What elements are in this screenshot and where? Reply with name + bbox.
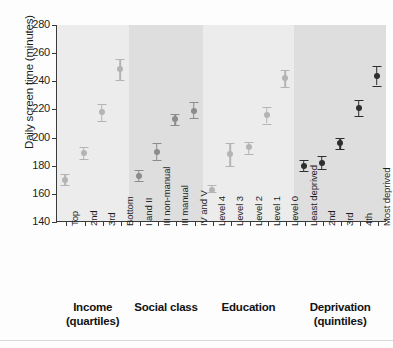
- chart-figure: Daily screen time (minutes) 140160180200…: [0, 0, 393, 348]
- marker-dot: [136, 173, 142, 179]
- x-axis-label: Level 2: [253, 196, 264, 226]
- x-axis-label: Level 3: [234, 196, 245, 226]
- data-point-income-3: [114, 25, 126, 222]
- error-bar-cap-upper: [116, 59, 125, 60]
- y-axis-tick-label: 280: [10, 18, 50, 30]
- marker-dot: [154, 149, 160, 155]
- error-bar-cap-upper: [317, 156, 326, 157]
- marker-dot: [172, 116, 178, 122]
- error-bar-cap-upper: [281, 70, 290, 71]
- data-point-education-2: [243, 25, 255, 222]
- marker-dot: [117, 66, 123, 72]
- marker-dot: [246, 144, 252, 150]
- data-point-income-1: [78, 25, 90, 222]
- error-bar-cap-upper: [354, 100, 363, 101]
- x-axis-label: 3rd: [106, 213, 117, 226]
- data-point-income-2: [96, 25, 108, 222]
- error-bar-cap-lower: [171, 125, 180, 126]
- x-axis-label: Top: [69, 211, 80, 226]
- error-bar-cap-lower: [372, 86, 381, 87]
- error-bar-cap-upper: [152, 143, 161, 144]
- x-axis-label: Level 0: [289, 196, 300, 226]
- y-axis-tick-label: 220: [10, 102, 50, 114]
- x-axis-label: 3rd: [344, 213, 355, 226]
- x-axis-label: III manual: [179, 185, 190, 226]
- error-bar-cap-upper: [171, 114, 180, 115]
- error-bar-cap-lower: [61, 185, 70, 186]
- y-axis-tick-label: 160: [10, 187, 50, 199]
- marker-dot: [301, 163, 307, 169]
- x-axis-label: I and II: [143, 198, 154, 226]
- data-point-education-3: [261, 25, 273, 222]
- marker-dot: [99, 109, 105, 115]
- error-bar-cap-lower: [281, 87, 290, 88]
- data-point-deprivation-2: [334, 25, 346, 222]
- group-caption-deprivation: Deprivation(quintiles): [280, 300, 393, 328]
- error-bar-cap-lower: [299, 171, 308, 172]
- y-axis-tick-label: 180: [10, 159, 50, 171]
- x-axis-label: Most deprived: [381, 168, 392, 226]
- plot-area: [56, 25, 386, 222]
- error-bar-cap-upper: [61, 174, 70, 175]
- error-bar-cap-lower: [134, 181, 143, 182]
- error-bar-cap-lower: [336, 149, 345, 150]
- x-axis-label: 4th: [363, 213, 374, 226]
- error-bar-cap-lower: [244, 154, 253, 155]
- marker-dot: [356, 105, 362, 111]
- error-bar-cap-lower: [116, 80, 125, 81]
- marker-dot: [227, 151, 233, 157]
- marker-dot: [374, 73, 380, 79]
- x-axis-label: 2nd: [326, 210, 337, 226]
- error-bar-cap-upper: [244, 142, 253, 143]
- group-caption-subtitle: (quintiles): [280, 314, 393, 328]
- x-axis-label: Level 1: [271, 196, 282, 226]
- x-axis-label: IV and V: [198, 190, 209, 226]
- error-bar-cap-lower: [79, 159, 88, 160]
- x-axis-label: Bottom: [124, 197, 135, 227]
- marker-dot: [191, 108, 197, 114]
- error-bar-cap-upper: [79, 147, 88, 148]
- error-bar-cap-upper: [299, 160, 308, 161]
- data-point-education-4: [279, 25, 291, 222]
- error-bar-cap-lower: [97, 121, 106, 122]
- y-axis-tick: [52, 222, 57, 223]
- error-bar-cap-upper: [226, 143, 235, 144]
- error-bar-cap-lower: [226, 166, 235, 167]
- marker-dot: [209, 187, 215, 193]
- y-axis-tick-label: 200: [10, 131, 50, 143]
- error-bar-cap-lower: [189, 118, 198, 119]
- marker-dot: [62, 177, 68, 183]
- y-axis-tick-label: 260: [10, 46, 50, 58]
- data-point-education-1: [224, 25, 236, 222]
- data-point-social-class-0: [133, 25, 145, 222]
- error-bar-cap-upper: [97, 104, 106, 105]
- marker-dot: [264, 112, 270, 118]
- x-axis-label: Level 4: [216, 196, 227, 226]
- y-axis-tick-label: 140: [10, 215, 50, 227]
- group-caption-title: Deprivation: [280, 300, 393, 314]
- error-bar-cap-upper: [189, 102, 198, 103]
- x-axis-label: III non-manual: [161, 167, 172, 226]
- error-bar-cap-upper: [134, 170, 143, 171]
- marker-dot: [319, 160, 325, 166]
- error-bar-cap-upper: [372, 66, 381, 67]
- y-axis-tick-label: 240: [10, 74, 50, 86]
- error-bar-cap-upper: [336, 138, 345, 139]
- error-bar-cap-lower: [152, 160, 161, 161]
- marker-dot: [282, 75, 288, 81]
- marker-dot: [337, 140, 343, 146]
- data-point-income-0: [59, 25, 71, 222]
- data-point-deprivation-3: [353, 25, 365, 222]
- group-caption-subtitle: (quartiles): [42, 314, 143, 328]
- x-axis-label: 2nd: [88, 210, 99, 226]
- error-bar-cap-lower: [262, 124, 271, 125]
- marker-dot: [81, 150, 87, 156]
- error-bar-cap-lower: [354, 116, 363, 117]
- bottom-divider: [0, 340, 393, 341]
- x-axis-label: Least deprived: [308, 165, 319, 226]
- error-bar-cap-upper: [262, 107, 271, 108]
